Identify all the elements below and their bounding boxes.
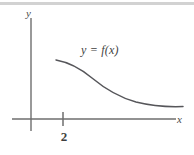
curve-equation-label: y = f(x) <box>81 44 119 56</box>
x-tick-label-2: 2 <box>57 130 71 143</box>
plot-svg <box>0 0 194 155</box>
function-curve <box>56 60 183 107</box>
y-axis-label: y <box>26 8 31 19</box>
figure-container: y x 2 y = f(x) <box>0 0 194 155</box>
x-axis-label: x <box>177 114 182 125</box>
